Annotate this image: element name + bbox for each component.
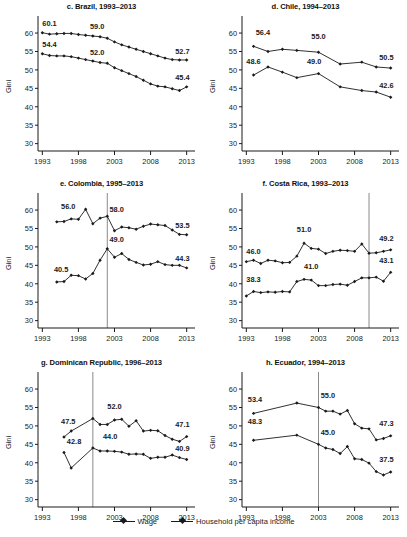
- y-axis-label: Gini: [4, 436, 13, 450]
- y-tick-label: 45: [25, 261, 33, 270]
- series-point: [156, 84, 159, 87]
- y-tick-label: 40: [25, 459, 33, 468]
- y-tick-label: 40: [25, 103, 33, 112]
- series-point: [346, 249, 349, 252]
- y-tick-label: 40: [229, 459, 237, 468]
- series-point: [134, 48, 137, 51]
- y-tick-label: 35: [229, 298, 237, 307]
- data-value-label: 51.0: [297, 225, 311, 234]
- series-point: [55, 220, 58, 223]
- y-tick-label: 60: [229, 385, 237, 394]
- data-value-label: 42.8: [67, 437, 81, 446]
- series-point: [91, 59, 94, 62]
- chart-canvas-chile: 3035404550556019931998200320082013Gini56…: [204, 0, 407, 179]
- y-tick-label: 55: [229, 47, 237, 56]
- chart-panel-costarica: f. Costa Rica, 1993–20133035404550556019…: [204, 177, 407, 356]
- series-point: [149, 222, 152, 225]
- series-point: [171, 264, 174, 267]
- series-point: [252, 45, 255, 48]
- series-point: [317, 406, 320, 409]
- series-point: [302, 278, 305, 281]
- y-tick-label: 50: [25, 422, 33, 431]
- series-point: [281, 261, 284, 264]
- series-point: [149, 52, 152, 55]
- data-value-label: 55.0: [311, 32, 325, 41]
- series-point: [55, 280, 58, 283]
- series-point: [48, 54, 51, 57]
- series-point: [171, 87, 174, 90]
- series-point: [106, 37, 109, 40]
- chart-title-ecuador: h. Ecuador, 1994–2013: [204, 358, 407, 367]
- y-tick-label: 40: [229, 280, 237, 289]
- series-point: [91, 34, 94, 37]
- x-tick-label: 1998: [70, 334, 86, 343]
- series-point: [185, 85, 188, 88]
- series-point: [317, 51, 320, 54]
- series-point: [178, 456, 181, 459]
- y-tick-label: 60: [229, 206, 237, 215]
- series-point: [142, 453, 145, 456]
- series-point: [367, 276, 370, 279]
- series-point: [338, 62, 341, 65]
- data-value-label: 45.4: [175, 73, 190, 82]
- series-point: [149, 429, 152, 432]
- chart-canvas-colombia: 3035404550556019931998200320082013Gini56…: [0, 177, 203, 356]
- series-point: [134, 228, 137, 231]
- y-tick-label: 40: [229, 103, 237, 112]
- series-point: [98, 61, 101, 64]
- series-point: [338, 412, 341, 415]
- legend-line-marker-icon: [113, 518, 135, 525]
- series-point: [360, 458, 363, 461]
- data-value-label: 56.4: [256, 28, 271, 37]
- series-point: [163, 456, 166, 459]
- data-value-label: 43.1: [379, 256, 393, 265]
- series-line: [64, 419, 187, 442]
- series-line: [64, 448, 187, 468]
- series-point: [62, 451, 65, 454]
- data-value-label: 47.1: [175, 420, 189, 429]
- series-point: [69, 55, 72, 58]
- series-point: [185, 233, 188, 236]
- data-value-label: 49.2: [379, 234, 393, 243]
- y-tick-label: 30: [25, 495, 33, 504]
- series-point: [156, 223, 159, 226]
- data-value-label: 48.6: [246, 57, 260, 66]
- series-point: [98, 449, 101, 452]
- chart-title-brazil: c. Brazil, 1993–2013: [0, 2, 203, 11]
- data-value-label: 56.0: [61, 202, 75, 211]
- series-point: [295, 49, 298, 52]
- data-value-label: 53.5: [175, 221, 189, 230]
- series-point: [142, 79, 145, 82]
- series-point: [353, 280, 356, 283]
- y-tick-label: 35: [229, 477, 237, 486]
- series-point: [171, 453, 174, 456]
- series-point: [389, 434, 392, 437]
- series-point: [266, 290, 269, 293]
- data-value-label: 52.7: [175, 47, 189, 56]
- series-point: [120, 225, 123, 228]
- y-tick-label: 30: [229, 316, 237, 325]
- data-value-label: 52.0: [90, 48, 104, 57]
- series-point: [127, 226, 130, 229]
- y-tick-label: 50: [229, 422, 237, 431]
- series-point: [331, 409, 334, 412]
- series-point: [324, 284, 327, 287]
- series-point: [281, 290, 284, 293]
- series-point: [389, 470, 392, 473]
- x-tick-label: 2008: [142, 334, 158, 343]
- y-tick-label: 50: [25, 243, 33, 252]
- series-point: [389, 95, 392, 98]
- series-point: [266, 65, 269, 68]
- data-value-label: 42.6: [379, 81, 393, 90]
- data-value-label: 53.4: [248, 395, 263, 404]
- data-value-label: 41.0: [304, 262, 318, 271]
- series-point: [113, 450, 116, 453]
- y-axis-label: Gini: [208, 436, 217, 450]
- series-point: [149, 82, 152, 85]
- series-point: [185, 266, 188, 269]
- legend-item-household: Household per capita income: [171, 516, 294, 526]
- series-point: [84, 34, 87, 37]
- data-value-label: 47.5: [61, 417, 75, 426]
- chart-canvas-dominican: 3035404550556019931998200320082013Gini47…: [0, 356, 203, 535]
- chart-canvas-brazil: 3035404550556019931998200320082013Gini60…: [0, 0, 203, 179]
